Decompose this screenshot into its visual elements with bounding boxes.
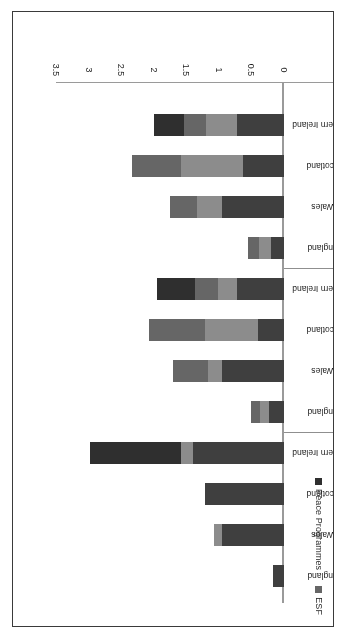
- value-axis-line: [56, 82, 334, 83]
- bar-row: Wales: [56, 515, 284, 556]
- rotated-plot-container: Peace ProgrammesESFEAFRDERDF 2000-2006En…: [13, 12, 332, 625]
- legend-item-esf: ESF: [314, 586, 324, 615]
- stacked-bar: [170, 197, 284, 219]
- bar-segment-erdf: [222, 525, 284, 547]
- value-axis-tick-0: 0: [279, 57, 289, 83]
- group-separator: [284, 432, 334, 433]
- chart-figure: Peace ProgrammesESFEAFRDERDF 2000-2006En…: [0, 0, 346, 638]
- stacked-bar: [273, 566, 284, 588]
- bar-segment-peace-programmes: [154, 115, 184, 137]
- bar-row: Northern Ireland: [56, 269, 284, 310]
- bar-segment-erdf: [237, 279, 284, 301]
- stacked-bar: [154, 115, 284, 137]
- bar-row: Scotland: [56, 474, 284, 515]
- bar-row: England: [56, 556, 284, 597]
- bar-segment-esf: [184, 115, 206, 137]
- bar-segment-eafrd: [181, 443, 193, 465]
- bar-segment-peace-programmes: [90, 443, 181, 465]
- category-label-england: England: [288, 572, 334, 582]
- bar-segment-erdf: [222, 197, 284, 219]
- category-label-scotland: Scotland: [288, 326, 334, 336]
- stacked-bar: [248, 238, 284, 260]
- stacked-bar: [214, 525, 284, 547]
- bar-row: Wales: [56, 351, 284, 392]
- bar-segment-peace-programmes: [157, 279, 195, 301]
- bar-segment-erdf: [193, 443, 284, 465]
- bar-segment-erdf: [258, 320, 284, 342]
- group-separator: [284, 268, 334, 269]
- value-axis-tick-1: 1: [214, 57, 224, 83]
- category-label-wales: Wales: [288, 531, 334, 541]
- bar-row: England: [56, 392, 284, 433]
- bar-segment-eafrd: [214, 525, 222, 547]
- value-axis-tick-3.5: 3.5: [51, 57, 61, 83]
- bar-segment-eafrd: [218, 279, 238, 301]
- bar-segment-esf: [251, 402, 259, 424]
- stacked-bar: [132, 156, 284, 178]
- category-label-northern-ireland: Northern Ireland: [288, 449, 334, 459]
- bar-segment-erdf: [237, 115, 284, 137]
- category-label-scotland: Scotland: [288, 162, 334, 172]
- bar-row: England: [56, 228, 284, 269]
- bar-row: Wales: [56, 187, 284, 228]
- stacked-bar: [157, 279, 284, 301]
- value-axis-tick-2.5: 2.5: [116, 57, 126, 83]
- bar-group-2007-2013: 2007-2013EnglandWalesScotlandNorthern Ir…: [56, 269, 284, 433]
- stacked-bar: [149, 320, 284, 342]
- legend-label: ESF: [314, 597, 324, 615]
- category-label-northern-ireland: Northern Ireland: [288, 121, 334, 131]
- bar-segment-eafrd: [206, 115, 237, 137]
- bar-segment-esf: [149, 320, 205, 342]
- bar-group-2014-2020: 2014-2020EnglandWalesScotlandNorthern Ir…: [56, 105, 284, 269]
- bar-segment-erdf: [243, 156, 284, 178]
- category-label-wales: Wales: [288, 203, 334, 213]
- bar-segment-esf: [195, 279, 218, 301]
- bar-segment-esf: [173, 361, 208, 383]
- bar-segment-erdf: [222, 361, 284, 383]
- stacked-bar: [205, 484, 284, 506]
- bar-segment-erdf: [205, 484, 284, 506]
- bar-row: Scotland: [56, 146, 284, 187]
- category-label-scotland: Scotland: [288, 490, 334, 500]
- bar-group-2000-2006: 2000-2006EnglandWalesScotlandNorthern Ir…: [56, 433, 284, 597]
- chart-frame: Peace ProgrammesESFEAFRDERDF 2000-2006En…: [12, 11, 334, 627]
- value-axis-tick-3: 3: [84, 57, 94, 83]
- category-label-wales: Wales: [288, 367, 334, 377]
- bar-segment-erdf: [269, 402, 284, 424]
- bar-segment-eafrd: [260, 402, 269, 424]
- bar-segment-esf: [170, 197, 197, 219]
- bar-segment-esf: [132, 156, 181, 178]
- value-axis-tick-0.5: 0.5: [246, 57, 256, 83]
- plot-area: 2000-2006EnglandWalesScotlandNorthern Ir…: [56, 83, 284, 603]
- stacked-bar: [173, 361, 284, 383]
- category-label-england: England: [288, 408, 334, 418]
- bar-segment-erdf: [273, 566, 284, 588]
- bar-segment-eafrd: [208, 361, 222, 383]
- bar-row: Northern Ireland: [56, 105, 284, 146]
- bar-segment-eafrd: [259, 238, 271, 260]
- category-label-england: England: [288, 244, 334, 254]
- bar-segment-erdf: [271, 238, 284, 260]
- value-axis-tick-2: 2: [149, 57, 159, 83]
- bar-row: Northern Ireland: [56, 433, 284, 474]
- legend-swatch-icon: [316, 586, 323, 593]
- bar-segment-esf: [248, 238, 259, 260]
- legend-swatch-icon: [316, 478, 323, 485]
- stacked-bar: [90, 443, 284, 465]
- category-label-northern-ireland: Northern Ireland: [288, 285, 334, 295]
- stacked-bar: [251, 402, 284, 424]
- bar-row: Scotland: [56, 310, 284, 351]
- bar-segment-eafrd: [181, 156, 243, 178]
- bar-segment-eafrd: [205, 320, 258, 342]
- value-axis-tick-1.5: 1.5: [181, 57, 191, 83]
- bar-segment-eafrd: [197, 197, 222, 219]
